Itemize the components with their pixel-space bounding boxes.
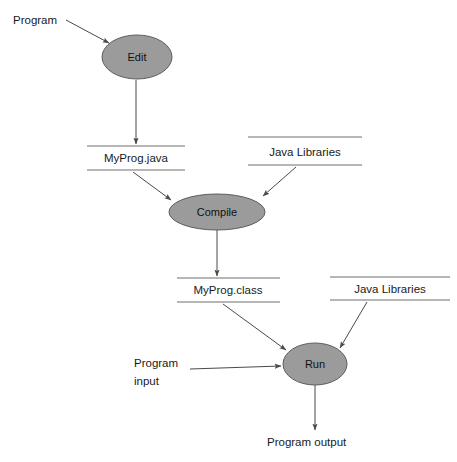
edge-program-to-edit [66, 20, 109, 43]
artifact-label-myprog-class: MyProg.class [193, 284, 262, 296]
artifact-java-libraries-compile: Java Libraries [248, 137, 362, 165]
process-node-label-run: Run [305, 358, 325, 370]
edge-program-input-to-run [190, 366, 281, 369]
process-node-layer: Edit Compile Run [102, 35, 347, 385]
artifact-layer: MyProg.java Java Libraries MyProg.class … [87, 137, 450, 302]
process-node-edit: Edit [102, 35, 172, 79]
artifact-myprog-class: MyProg.class [177, 278, 280, 302]
artifact-label-myprog-java: MyProg.java [104, 152, 169, 164]
artifact-myprog-java: MyProg.java [87, 146, 185, 170]
edge-java-libraries-to-run [340, 302, 367, 348]
process-node-label-compile: Compile [197, 206, 237, 218]
process-node-run: Run [283, 343, 347, 385]
process-diagram: MyProg.java Java Libraries MyProg.class … [0, 0, 457, 462]
label-program-input-line2: input [134, 375, 160, 387]
diagram-canvas: MyProg.java Java Libraries MyProg.class … [0, 0, 457, 462]
process-node-label-edit: Edit [128, 51, 147, 63]
edge-myprog-class-to-run [223, 304, 286, 350]
artifact-label-java-libraries-run: Java Libraries [354, 283, 426, 295]
edge-java-libraries-to-compile [263, 167, 296, 196]
label-program-input-line1: Program [134, 357, 178, 369]
free-label-layer: Program Program input Program output [13, 14, 347, 448]
artifact-label-java-libraries-compile: Java Libraries [269, 146, 341, 158]
label-program-source: Program [13, 14, 57, 26]
edge-myprog-java-to-compile [133, 172, 171, 200]
process-node-compile: Compile [169, 194, 265, 230]
artifact-java-libraries-run: Java Libraries [330, 277, 450, 300]
label-program-output: Program output [267, 436, 347, 448]
